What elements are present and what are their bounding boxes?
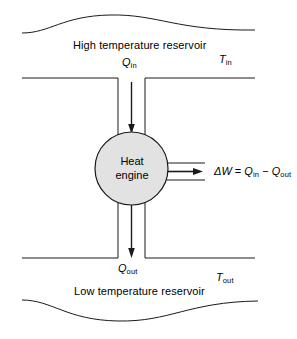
work-arrow-head [193,168,203,175]
hot-reservoir-top-wave [22,15,255,33]
cold-reservoir-label: Low temperature reservoir [74,285,205,298]
work-equation-label: ΔW = Qin − Qout [214,165,291,178]
heat-out-arrow-head [128,248,135,258]
heat-engine-label: Heat engine [106,155,158,183]
heat-out-symbol: Q [118,262,127,274]
temp-out-symbol: T [216,271,223,283]
cold-reservoir-bottom-wave [22,300,258,321]
heat-out-label: Qout [118,262,138,275]
heat-in-subscript: in [131,61,137,70]
heat-engine-diagram: High temperature reservoir Tin Qin Heat … [0,0,297,339]
temp-out-subscript: out [223,276,234,285]
heat-in-label: Qin [122,56,137,69]
cold-reservoir-temperature-label: Tout [216,271,234,284]
heat-in-symbol: Q [122,56,131,68]
work-term2-symbol: Q [272,165,281,177]
work-term1-subscript: in [253,170,259,179]
heat-out-subscript: out [127,267,138,276]
temp-in-subscript: in [226,58,232,67]
heat-engine-label-line2: engine [106,169,158,183]
work-term1-symbol: Q [244,165,253,177]
heat-engine-label-line1: Heat [106,155,158,169]
work-symbol: ΔW [214,165,232,177]
work-term2-subscript: out [280,170,291,179]
temp-in-symbol: T [219,53,226,65]
hot-reservoir-label: High temperature reservoir [73,39,206,52]
hot-reservoir-temperature-label: Tin [219,53,232,66]
